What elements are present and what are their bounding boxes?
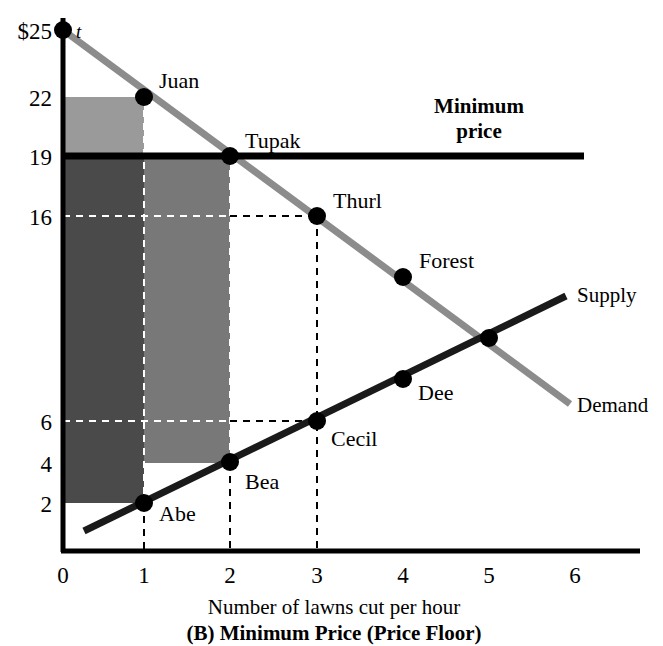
y-tick-2: 2 [41, 492, 53, 517]
t-marker-label: t [76, 21, 82, 42]
label-abe: Abe [159, 501, 196, 526]
x-tick-6: 6 [569, 563, 581, 588]
supply-curve-label: Supply [577, 283, 637, 307]
label-tupak: Tupak [245, 128, 300, 153]
label-cecil: Cecil [331, 426, 377, 451]
point-abe [135, 494, 153, 512]
y-tick-6: 6 [41, 410, 53, 435]
point-equilibrium [480, 329, 498, 347]
figure-caption: (B) Minimum Price (Price Floor) [186, 621, 481, 645]
x-tick-3: 3 [311, 563, 323, 588]
y-tick-25: $25 [18, 19, 53, 44]
point-demand-origin [54, 21, 72, 39]
y-tick-4: 4 [41, 452, 53, 477]
dark-producer-block [63, 157, 144, 503]
point-juan [135, 88, 153, 106]
y-tick-22: 22 [29, 86, 52, 111]
label-bea: Bea [245, 469, 279, 494]
point-forest [394, 268, 412, 286]
x-tick-5: 5 [483, 563, 495, 588]
minimum-price-label-line2: price [456, 119, 501, 143]
point-dee [394, 370, 412, 388]
point-cecil [308, 412, 326, 430]
x-axis-title: Number of lawns cut per hour [208, 595, 461, 619]
x-tick-1: 1 [138, 563, 150, 588]
label-dee: Dee [418, 380, 453, 405]
y-tick-19: 19 [29, 145, 52, 170]
minimum-price-label-line1: Minimum [434, 94, 524, 118]
label-thurl: Thurl [333, 188, 382, 213]
point-thurl [308, 207, 326, 225]
label-juan: Juan [159, 68, 199, 93]
point-tupak [221, 147, 239, 165]
price-floor-chart: $25 22 19 16 6 4 2 0 1 2 3 4 5 6 Juan Tu… [0, 0, 663, 646]
point-bea [221, 453, 239, 471]
x-tick-2: 2 [224, 563, 236, 588]
y-tick-16: 16 [29, 205, 52, 230]
x-tick-0: 0 [57, 563, 69, 588]
medium-producer-block [144, 157, 230, 463]
light-surplus-band [63, 97, 144, 156]
demand-curve-label: Demand [577, 393, 649, 417]
x-tick-4: 4 [397, 563, 409, 588]
label-forest: Forest [419, 248, 474, 273]
